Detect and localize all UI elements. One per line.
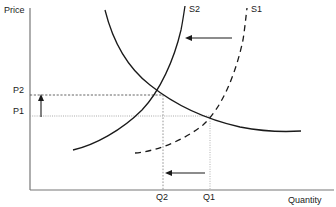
supply-curve-s1 [135,8,247,153]
supply-demand-chart: Price Quantity P2 P1 Q2 Q1 S2 S1 [0,0,336,207]
x-axis-title: Quantity [288,196,322,205]
y-axis-title: Price [4,6,25,15]
demand-curve [105,10,301,132]
curve-label-s1: S1 [251,5,262,14]
curve-label-s2: S2 [189,5,200,14]
price-increase-arrow [38,94,44,117]
chart-canvas [0,0,336,207]
x-tick-label-q2: Q2 [156,193,168,202]
supply-curve-s2 [73,6,185,150]
y-tick-label-p2: P2 [13,86,24,95]
y-tick-label-p1: P1 [13,107,24,116]
quantity-decrease-arrow [165,170,205,176]
supply-shift-arrow [185,35,232,41]
x-tick-label-q1: Q1 [203,193,215,202]
